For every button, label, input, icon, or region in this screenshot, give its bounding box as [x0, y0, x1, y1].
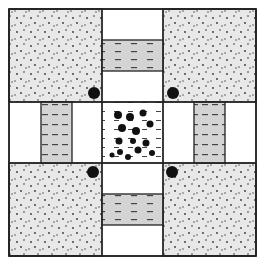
bar-bottom: [102, 194, 163, 225]
blob-icon: [118, 124, 126, 132]
corner-dot-icon: [167, 87, 179, 99]
blob-icon: [143, 140, 150, 147]
bar-left: [41, 102, 72, 163]
corner-dot-icon: [87, 166, 99, 178]
blob-icon: [132, 127, 140, 135]
blob-icon: [140, 110, 147, 117]
blob-icon: [117, 149, 123, 155]
bar-top: [102, 40, 163, 71]
blob-icon: [135, 147, 142, 154]
blob-icon: [149, 150, 155, 156]
corner-top-left: [9, 9, 102, 102]
diagram-canvas: [0, 0, 267, 268]
corner-top-right: [163, 9, 256, 102]
blob-icon: [114, 111, 122, 119]
bar-right: [194, 102, 225, 163]
corner-dot-icon: [88, 87, 100, 99]
blob-icon: [116, 138, 123, 145]
quilt-diagram: [0, 0, 267, 268]
blob-icon: [110, 153, 115, 158]
blob-icon: [125, 154, 131, 160]
blob-icon: [126, 113, 134, 121]
corner-dot-icon: [166, 166, 178, 178]
blob-icon: [130, 138, 136, 144]
corner-bottom-right: [163, 163, 256, 256]
corner-bottom-left: [9, 163, 102, 256]
blob-icon: [147, 121, 154, 128]
